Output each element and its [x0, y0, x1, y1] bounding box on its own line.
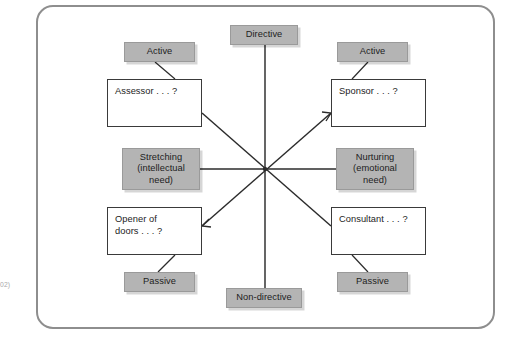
axis-label-nurturing-line-3: need) — [353, 175, 397, 186]
quadrant-tag-top-left: Active — [124, 42, 195, 62]
axis-label-nurturing-line-1: Nurturing — [353, 152, 397, 163]
margin-caption: 02) — [0, 276, 34, 290]
quadrant-box-opener-of-doors: Opener of doors . . . ? — [107, 207, 202, 255]
axis-label-stretching-line-1: Stretching — [137, 152, 185, 163]
quadrant-box-consultant-line-1: Consultant . . . ? — [339, 213, 408, 225]
quadrant-box-sponsor: Sponsor . . . ? — [331, 79, 426, 127]
axis-label-stretching-line-3: need) — [137, 175, 185, 186]
quadrant-tag-bottom-left: Passive — [124, 272, 195, 292]
quadrant-box-assessor-line-1: Assessor . . . ? — [115, 85, 177, 97]
axis-label-stretching: Stretching (intellectual need) — [122, 148, 200, 190]
axis-label-nurturing-line-2: (emotional — [353, 163, 397, 174]
quadrant-box-assessor: Assessor . . . ? — [107, 79, 202, 127]
quadrant-box-opener-of-doors-line-2: doors . . . ? — [115, 225, 162, 237]
quadrant-box-sponsor-line-1: Sponsor . . . ? — [339, 85, 398, 97]
quadrant-tag-bottom-right: Passive — [337, 272, 408, 292]
axis-label-non-directive: Non-directive — [226, 288, 302, 308]
axis-label-directive: Directive — [230, 25, 298, 45]
diagram-frame — [36, 5, 495, 329]
axis-label-nurturing: Nurturing (emotional need) — [336, 148, 414, 190]
quadrant-box-opener-of-doors-line-1: Opener of — [115, 213, 162, 225]
axis-label-stretching-line-2: (intellectual — [137, 163, 185, 174]
quadrant-tag-top-right: Active — [337, 42, 408, 62]
quadrant-box-consultant: Consultant . . . ? — [331, 207, 426, 255]
margin-caption-source: 02) — [0, 281, 34, 290]
